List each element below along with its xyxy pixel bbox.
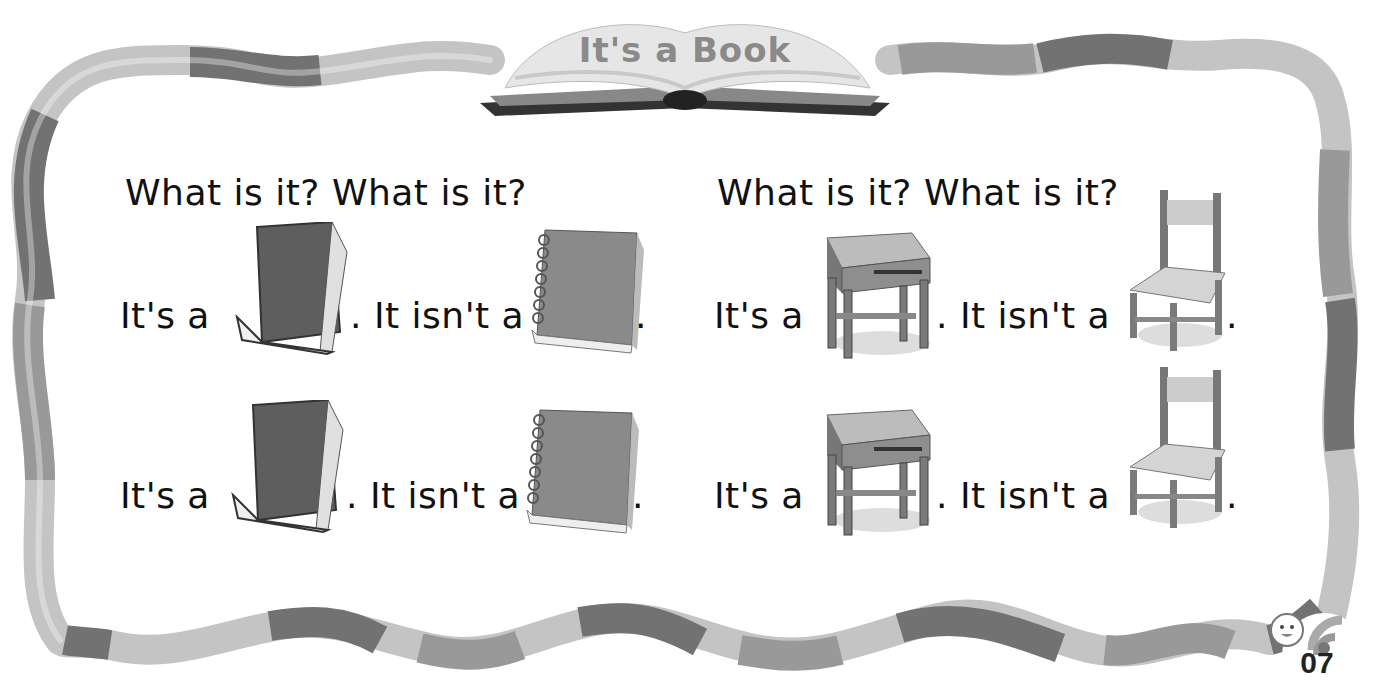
smiling-face-icon — [1271, 614, 1303, 646]
left-row-1-middle: . It isn't a — [350, 295, 524, 336]
title-banner: It's a Book — [475, 8, 895, 118]
left-question: What is it? What is it? — [125, 172, 527, 213]
left-row-2-middle: . It isn't a — [346, 475, 520, 516]
left-row-1-prefix: It's a — [120, 295, 210, 336]
book-icon — [228, 400, 346, 535]
chair-icon — [1125, 185, 1230, 355]
school-desk-icon — [822, 405, 934, 537]
audio-page-badge[interactable]: 07 — [1262, 600, 1367, 697]
right-row-1-prefix: It's a — [714, 295, 804, 336]
right-row-1-suffix: . — [1226, 295, 1238, 336]
left-row-2-suffix: . — [632, 475, 644, 516]
left-row-1-suffix: . — [635, 295, 647, 336]
school-desk-icon — [822, 228, 934, 360]
page-number: 07 — [1262, 646, 1372, 680]
right-row-1-middle: . It isn't a — [936, 295, 1110, 336]
spiral-notebook-icon — [527, 225, 645, 357]
right-question: What is it? What is it? — [717, 172, 1119, 213]
book-icon — [232, 222, 350, 357]
right-row-2-middle: . It isn't a — [936, 475, 1110, 516]
left-row-2-prefix: It's a — [120, 475, 210, 516]
page-title: It's a Book — [475, 30, 895, 70]
right-row-2-prefix: It's a — [714, 475, 804, 516]
chair-icon — [1125, 362, 1230, 532]
spiral-notebook-icon — [522, 405, 640, 537]
right-row-2-suffix: . — [1226, 475, 1238, 516]
